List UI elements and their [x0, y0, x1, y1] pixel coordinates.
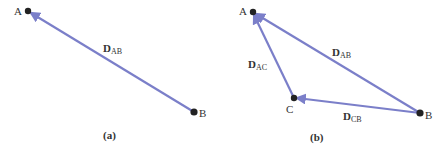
point-a-label: A	[14, 5, 22, 17]
vector-label-dab-a: DAB	[103, 42, 122, 56]
vector-label-dab-b: DAB	[332, 46, 351, 60]
vector-arrow-dab-a	[31, 13, 194, 112]
panel-caption-a: (a)	[103, 129, 116, 142]
vector-label-main: D	[103, 42, 111, 54]
point-b-label: B	[425, 109, 432, 121]
vector-label-sub: AB	[111, 47, 122, 56]
panel-b: A C B DAB DAC DCB (b)	[239, 5, 432, 144]
point-b-dot	[416, 109, 423, 116]
vector-label-sub: AB	[340, 51, 351, 60]
panel-a: A B DAB (a)	[14, 5, 206, 142]
vector-arrow-dac	[254, 15, 294, 98]
panel-caption-b: (b)	[310, 131, 324, 144]
point-a-dot	[25, 8, 31, 14]
point-c-label: C	[286, 103, 293, 115]
vector-arrow-dab-b	[256, 14, 420, 113]
vector-diagram: A B DAB (a) A C B DAB DAC DCB (b)	[0, 0, 443, 148]
vector-label-main: D	[248, 58, 256, 70]
point-a-label: A	[239, 5, 247, 17]
point-a-dot	[250, 9, 256, 15]
vector-label-sub: AC	[256, 63, 267, 72]
vector-label-dac: DAC	[248, 58, 267, 72]
vector-label-main: D	[343, 110, 351, 122]
vector-label-main: D	[332, 46, 340, 58]
vector-arrow-dcb	[297, 98, 420, 113]
vector-label-sub: CB	[351, 115, 362, 124]
point-c-dot	[291, 95, 297, 101]
vector-label-dcb: DCB	[343, 110, 362, 124]
point-b-dot	[190, 108, 197, 115]
point-b-label: B	[199, 107, 206, 119]
